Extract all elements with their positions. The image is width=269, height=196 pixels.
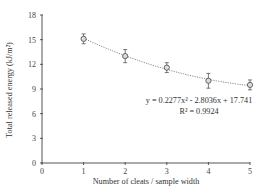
trendline bbox=[84, 38, 250, 85]
x-axis-ticks: 012345 bbox=[40, 162, 252, 176]
r-squared-label: R² = 0.9924 bbox=[179, 107, 218, 116]
y-tick-label: 12 bbox=[28, 60, 36, 69]
y-axis-ticks: 0369121518 bbox=[28, 11, 43, 168]
x-tick-label: 3 bbox=[165, 167, 169, 176]
axes bbox=[42, 15, 250, 163]
data-point bbox=[123, 50, 128, 63]
y-tick-label: 18 bbox=[28, 11, 36, 20]
data-point bbox=[81, 34, 86, 44]
y-axis-title: Total released energy (kJ/m²) bbox=[5, 42, 14, 138]
x-tick-label: 0 bbox=[40, 167, 44, 176]
x-tick-label: 1 bbox=[82, 167, 86, 176]
x-tick-label: 5 bbox=[248, 167, 252, 176]
data-point bbox=[206, 73, 211, 88]
trendline-equation: y = 0.2277x² - 2.8036x + 17.741 bbox=[146, 96, 253, 105]
y-tick-label: 6 bbox=[32, 110, 36, 119]
x-axis-title: Number of cleats / sample width bbox=[93, 177, 200, 186]
y-tick-label: 9 bbox=[32, 85, 36, 94]
data-point bbox=[247, 80, 252, 90]
x-tick-label: 2 bbox=[123, 167, 127, 176]
y-tick-label: 15 bbox=[28, 36, 36, 45]
x-tick-label: 4 bbox=[206, 167, 210, 176]
y-tick-label: 3 bbox=[32, 134, 36, 143]
y-tick-label: 0 bbox=[32, 159, 36, 168]
data-points bbox=[81, 34, 253, 90]
data-point bbox=[164, 63, 169, 73]
chart: 0369121518 012345 Total released energy … bbox=[0, 0, 269, 196]
